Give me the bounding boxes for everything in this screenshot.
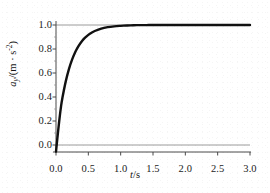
y-tick-label: 0.8 <box>26 44 52 55</box>
y-axis-title: ay/(m · s-2) <box>6 4 20 124</box>
y-tick-label: 0.2 <box>26 116 52 127</box>
y-axis-unit: m · s <box>7 51 18 72</box>
y-axis-separator: /( <box>7 72 18 78</box>
y-axis-close-paren: ) <box>7 41 18 45</box>
x-tick-label-group: 0.00.51.01.52.02.53.0 <box>0 152 270 170</box>
x-axis-title: t/s <box>0 170 270 181</box>
y-axis-exponent: -2 <box>5 44 14 50</box>
data-curve-ay <box>56 25 250 152</box>
y-tick-label: 0.4 <box>26 92 52 103</box>
y-tick-label: 1.0 <box>26 20 52 31</box>
y-axis-subscript: y <box>11 78 20 81</box>
x-axis-unit: s <box>136 169 140 180</box>
chart-figure: 0.00.20.40.60.81.0 0.00.51.01.52.02.53.0… <box>0 0 270 193</box>
y-tick-label: 0.6 <box>26 68 52 79</box>
y-tick-label: 0.0 <box>26 140 52 151</box>
y-axis-variable: a <box>7 81 18 86</box>
